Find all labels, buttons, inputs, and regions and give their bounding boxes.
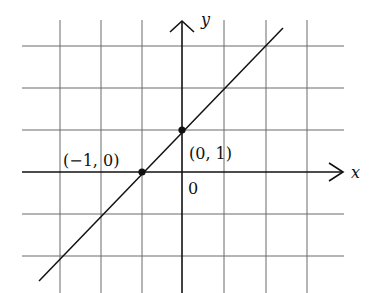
x-axis-label: x xyxy=(351,163,360,182)
origin-label: 0 xyxy=(188,179,198,198)
coordinate-plane: y x 0 (−1, 0) (0, 1) xyxy=(0,0,370,293)
point-label-neg1-0: (−1, 0) xyxy=(63,151,119,170)
point-0-1 xyxy=(178,126,185,133)
point-neg1-0 xyxy=(138,168,145,175)
point-label-0-1: (0, 1) xyxy=(189,144,232,163)
y-axis-label: y xyxy=(200,10,211,29)
